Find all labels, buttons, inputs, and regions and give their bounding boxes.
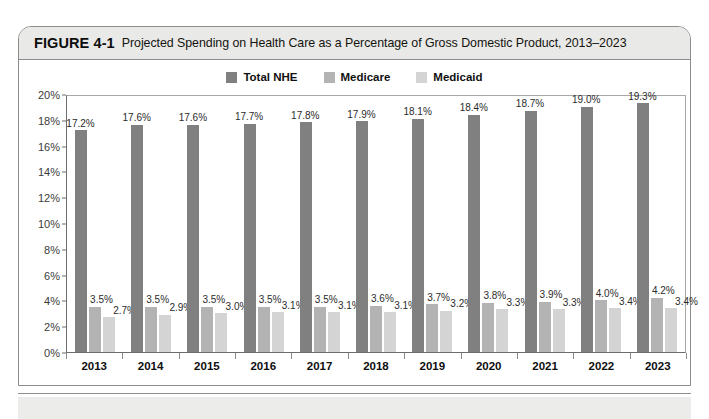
bar-group-bars: 17.2%3.5%2.7%: [67, 96, 123, 352]
bar-medicaid-2023[interactable]: 3.4%: [665, 308, 677, 352]
bar-total-nhe-2019[interactable]: 18.1%: [412, 119, 424, 352]
bar-total-nhe-2017[interactable]: 17.8%: [300, 122, 312, 352]
bar-total-nhe-2014[interactable]: 17.6%: [131, 125, 143, 352]
bar-group-2022: 19.0%4.0%3.4%: [573, 96, 629, 352]
bar-value-label: 17.7%: [235, 112, 263, 123]
bar-value-label: 3.8%: [483, 291, 506, 302]
x-axis-tick-mark: [573, 353, 574, 359]
y-axis-tick-label: 6%: [44, 270, 60, 282]
bar-medicare-2016[interactable]: 3.5%: [258, 307, 270, 352]
y-axis-tick-label: 20%: [38, 89, 60, 101]
bar-total-nhe-2022[interactable]: 19.0%: [581, 107, 593, 352]
bar-medicaid-2018[interactable]: 3.1%: [384, 312, 396, 352]
bar-total-nhe-2013[interactable]: 17.2%: [75, 130, 87, 352]
x-axis-label-2021: 2021: [517, 360, 573, 372]
bar-medicare-2021[interactable]: 3.9%: [539, 302, 551, 352]
bar-total-nhe-2021[interactable]: 18.7%: [525, 111, 537, 352]
x-axis-label-2020: 2020: [461, 360, 517, 372]
bar-value-label: 18.1%: [403, 107, 431, 118]
x-axis-labels: 2013201420152016201720182019202020212022…: [66, 360, 686, 372]
x-axis-tick-mark: [517, 353, 518, 359]
x-axis-tick-mark: [66, 353, 67, 359]
bar-value-label: 3.5%: [146, 295, 169, 306]
bar-medicare-2019[interactable]: 3.7%: [426, 304, 438, 352]
x-axis-ticks: [66, 353, 686, 360]
bar-value-label: 3.6%: [371, 294, 394, 305]
bar-medicare-2022[interactable]: 4.0%: [595, 300, 607, 352]
bar-medicare-2017[interactable]: 3.5%: [314, 307, 326, 352]
legend-item-total-nhe[interactable]: Total NHE: [226, 71, 297, 83]
bar-medicaid-2014[interactable]: 2.9%: [159, 315, 171, 352]
bar-total-nhe-2015[interactable]: 17.6%: [187, 125, 199, 352]
bar-value-label: 3.4%: [675, 297, 698, 308]
bar-value-label: 3.9%: [540, 290, 563, 301]
bar-group-2021: 18.7%3.9%3.3%: [517, 96, 573, 352]
figure-container: FIGURE 4-1 Projected Spending on Health …: [18, 26, 691, 386]
bar-group-2019: 18.1%3.7%3.2%: [404, 96, 460, 352]
y-axis-tick-label: 8%: [44, 244, 60, 256]
bar-group-2016: 17.7%3.5%3.1%: [236, 96, 292, 352]
bar-group-bars: 17.9%3.6%3.1%: [348, 96, 404, 352]
bar-group-2014: 17.6%3.5%2.9%: [123, 96, 179, 352]
bar-group-bars: 17.6%3.5%3.0%: [179, 96, 235, 352]
footer-band: [18, 397, 691, 419]
legend-item-medicare[interactable]: Medicare: [324, 71, 391, 83]
bar-group-2015: 17.6%3.5%3.0%: [179, 96, 235, 352]
legend-label: Medicaid: [433, 71, 482, 83]
bar-medicaid-2021[interactable]: 3.3%: [553, 309, 565, 352]
bar-group-bars: 18.4%3.8%3.3%: [460, 96, 516, 352]
bar-total-nhe-2016[interactable]: 17.7%: [244, 124, 256, 352]
bar-value-label: 18.4%: [460, 103, 488, 114]
y-axis-tick-label: 16%: [38, 141, 60, 153]
bar-total-nhe-2018[interactable]: 17.9%: [356, 121, 368, 352]
x-axis-tick-mark: [122, 353, 123, 359]
bar-medicaid-2020[interactable]: 3.3%: [496, 309, 508, 352]
bar-total-nhe-2020[interactable]: 18.4%: [468, 115, 480, 352]
bar-value-label: 3.5%: [202, 295, 225, 306]
bar-group-2017: 17.8%3.5%3.1%: [292, 96, 348, 352]
bar-medicare-2013[interactable]: 3.5%: [89, 307, 101, 352]
x-axis-label-2019: 2019: [404, 360, 460, 372]
y-axis-tick-label: 0%: [44, 347, 60, 359]
figure-number-label: FIGURE 4-1: [34, 35, 115, 51]
bar-group-2020: 18.4%3.8%3.3%: [460, 96, 516, 352]
bar-value-label: 18.7%: [516, 99, 544, 110]
x-axis-label-2022: 2022: [573, 360, 629, 372]
bar-value-label: 19.3%: [628, 92, 656, 103]
x-axis-tick-mark: [179, 353, 180, 359]
bar-medicaid-2022[interactable]: 3.4%: [609, 308, 621, 352]
x-axis-tick-mark: [630, 353, 631, 359]
bar-group-bars: 17.6%3.5%2.9%: [123, 96, 179, 352]
bar-medicare-2014[interactable]: 3.5%: [145, 307, 157, 352]
bar-medicare-2023[interactable]: 4.2%: [651, 298, 663, 352]
bar-value-label: 17.2%: [66, 119, 94, 130]
y-axis-tick-label: 14%: [38, 166, 60, 178]
bar-value-label: 4.2%: [652, 286, 675, 297]
bar-medicare-2015[interactable]: 3.5%: [201, 307, 213, 352]
bar-medicaid-2013[interactable]: 2.7%: [103, 317, 115, 352]
y-axis-tick-label: 12%: [38, 192, 60, 204]
bar-medicaid-2016[interactable]: 3.1%: [272, 312, 284, 352]
x-axis-label-2016: 2016: [235, 360, 291, 372]
legend-swatch-icon: [416, 72, 427, 83]
bar-medicaid-2017[interactable]: 3.1%: [328, 312, 340, 352]
x-axis-label-2017: 2017: [291, 360, 347, 372]
bar-value-label: 3.5%: [259, 295, 282, 306]
bar-medicaid-2019[interactable]: 3.2%: [440, 311, 452, 352]
legend-swatch-icon: [324, 72, 335, 83]
y-axis-tick-label: 4%: [44, 295, 60, 307]
y-axis-tick-label: 18%: [38, 115, 60, 127]
chart-legend: Total NHEMedicareMedicaid: [19, 71, 690, 83]
legend-label: Total NHE: [243, 71, 297, 83]
plot-area: 17.2%3.5%2.7%17.6%3.5%2.9%17.6%3.5%3.0%1…: [66, 95, 686, 353]
bar-medicare-2018[interactable]: 3.6%: [370, 306, 382, 352]
bar-medicare-2020[interactable]: 3.8%: [482, 303, 494, 352]
y-axis-tick-label: 10%: [38, 218, 60, 230]
bar-medicaid-2015[interactable]: 3.0%: [215, 313, 227, 352]
x-axis-label-2014: 2014: [122, 360, 178, 372]
bar-group-bars: 19.3%4.2%3.4%: [629, 96, 685, 352]
bar-group-2013: 17.2%3.5%2.7%: [67, 96, 123, 352]
bar-total-nhe-2023[interactable]: 19.3%: [637, 103, 649, 352]
bar-group-bars: 19.0%4.0%3.4%: [573, 96, 629, 352]
legend-item-medicaid[interactable]: Medicaid: [416, 71, 482, 83]
